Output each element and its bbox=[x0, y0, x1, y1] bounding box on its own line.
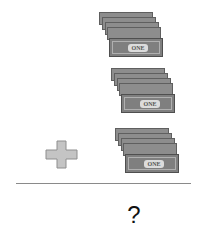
sum-line bbox=[16, 183, 191, 184]
bill-label: ONE bbox=[144, 160, 164, 168]
dollar-bill: ONE bbox=[121, 94, 175, 113]
bill-label: ONE bbox=[140, 100, 160, 108]
answer-placeholder: ? bbox=[124, 200, 144, 230]
dollar-bill: ONE bbox=[109, 38, 163, 57]
plus-icon bbox=[45, 140, 78, 169]
dollar-bill: ONE bbox=[125, 154, 179, 173]
bill-label: ONE bbox=[128, 44, 148, 52]
